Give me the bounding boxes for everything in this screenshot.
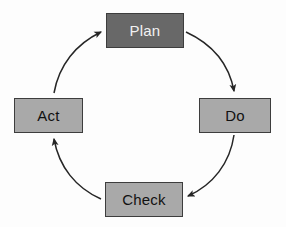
edge-act-to-plan: [54, 32, 101, 93]
node-plan-label: Plan: [130, 23, 161, 38]
node-check[interactable]: Check: [105, 182, 183, 217]
node-do[interactable]: Do: [199, 98, 271, 133]
pdca-cycle-diagram: Plan Do Check Act: [0, 0, 286, 227]
node-act-label: Act: [37, 108, 59, 123]
node-plan[interactable]: Plan: [106, 13, 184, 48]
edge-do-to-check: [188, 135, 234, 196]
node-do-label: Do: [225, 108, 245, 123]
edge-plan-to-do: [186, 32, 234, 91]
node-act[interactable]: Act: [14, 98, 83, 133]
node-check-label: Check: [122, 192, 166, 207]
edge-check-to-act: [54, 139, 101, 199]
